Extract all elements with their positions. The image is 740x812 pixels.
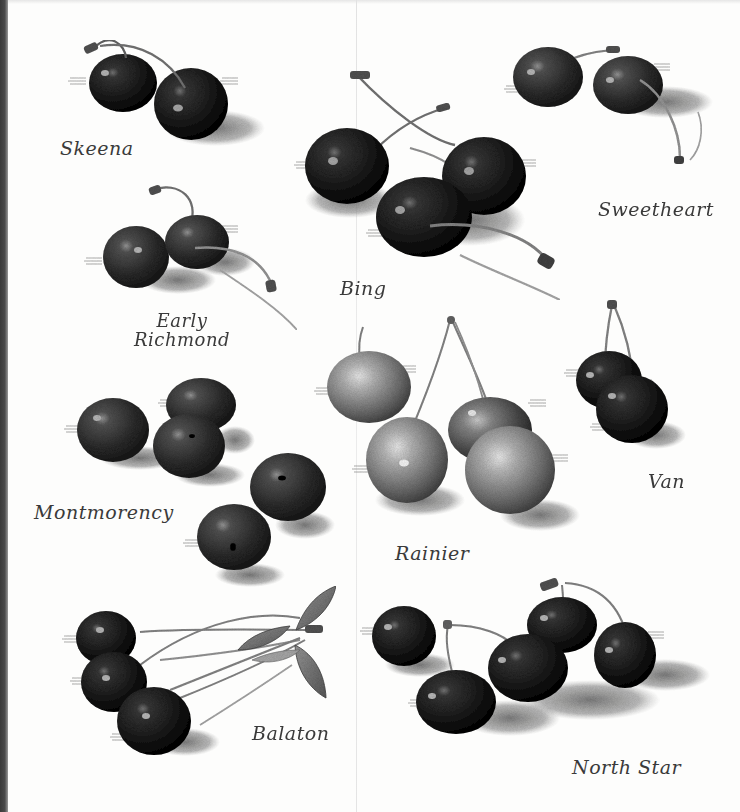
- montmorency-cherries: [64, 378, 335, 587]
- label-skeena: Skeena: [60, 139, 134, 159]
- rainier-cherries: [314, 316, 580, 531]
- label-early-richmond: Early Richmond: [134, 312, 230, 350]
- north-star-cherries: [360, 577, 710, 736]
- illustration-page: Skeena Bing Sweetheart Early Richmond Mo…: [0, 0, 740, 812]
- van-cherries: [564, 300, 686, 449]
- label-balaton: Balaton: [252, 724, 330, 744]
- label-sweetheart: Sweetheart: [598, 200, 714, 220]
- early-richmond-cherries: [84, 184, 297, 330]
- label-rainier: Rainier: [395, 544, 469, 564]
- label-early-richmond-line2: Richmond: [134, 331, 230, 350]
- label-montmorency: Montmorency: [34, 503, 174, 523]
- label-north-star: North Star: [572, 758, 681, 778]
- label-bing: Bing: [340, 279, 386, 299]
- label-van: Van: [648, 472, 685, 492]
- bing-cherries: [294, 71, 560, 300]
- skeena-cherries: [68, 40, 265, 146]
- sweetheart-cherries: [504, 46, 713, 164]
- cherry-illustration: [0, 0, 740, 812]
